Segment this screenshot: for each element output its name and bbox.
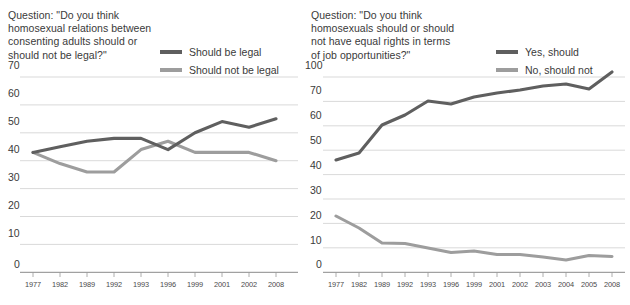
plot-area-jobrights bbox=[305, 0, 630, 305]
plot-svg bbox=[305, 0, 630, 305]
gridlines bbox=[20, 77, 298, 244]
x-axis-tick-label: 2008 bbox=[596, 280, 628, 289]
series-line-yes-should bbox=[336, 72, 612, 160]
chart-panel-jobrights: Question: "Do you think homosexuals shou… bbox=[305, 0, 630, 305]
series-line-no-should-not bbox=[336, 216, 612, 260]
series-line-should-be-legal bbox=[33, 119, 276, 153]
x-axis-tick-marks bbox=[33, 272, 276, 277]
chart-panel-legality: Question: "Do you think homosexual relat… bbox=[0, 0, 305, 305]
plot-svg bbox=[0, 0, 305, 305]
gridlines bbox=[323, 77, 625, 248]
x-axis-tick-label: 2008 bbox=[260, 280, 292, 289]
dual-line-chart-figure: Question: "Do you think homosexual relat… bbox=[0, 0, 630, 305]
plot-area-legality bbox=[0, 0, 305, 305]
x-axis-tick-marks bbox=[336, 272, 612, 277]
